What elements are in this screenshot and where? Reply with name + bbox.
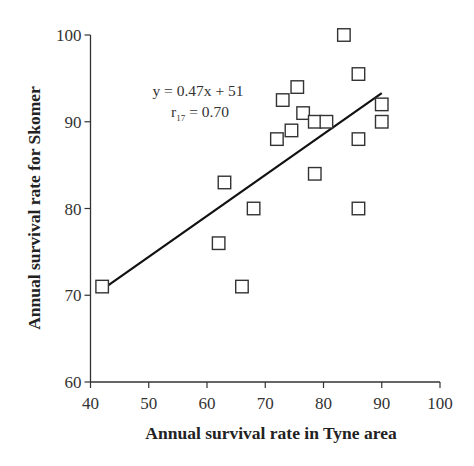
scatter-chart: 405060708090100 60708090100 y = 0.47x + … [0,0,474,466]
data-point-square [309,116,322,129]
x-tick-label: 60 [199,394,216,413]
x-tick-label: 40 [82,394,99,413]
data-point-square [352,133,365,146]
x-ticks: 405060708090100 [82,382,453,413]
y-tick-label: 90 [65,113,82,132]
x-tick-label: 50 [140,394,157,413]
x-tick-label: 100 [427,394,453,413]
correlation-label: r17 = 0.70 [171,103,229,123]
data-points [96,29,388,293]
y-ticks: 60708090100 [56,26,91,392]
data-point-square [285,124,298,137]
regression-line [103,93,382,289]
axes: 405060708090100 60708090100 [56,26,453,413]
y-tick-label: 100 [56,26,82,45]
data-point-square [276,94,289,107]
data-point-square [96,280,109,293]
data-point-square [376,116,389,129]
data-point-square [320,116,333,129]
x-tick-label: 80 [315,394,332,413]
x-axis-title: Annual survival rate in Tyne area [145,423,397,443]
equation-label: y = 0.47x + 51 [152,82,243,99]
data-point-square [297,107,310,120]
data-point-square [212,237,225,250]
data-point-square [376,98,389,111]
y-tick-label: 80 [65,200,82,219]
data-point-square [338,29,351,42]
x-tick-label: 70 [257,394,274,413]
data-point-square [247,202,260,215]
data-point-square [291,81,304,94]
y-axis-title: Annual survival rate for Skomer [24,86,44,330]
data-point-square [352,68,365,81]
data-point-square [218,176,231,189]
data-point-square [309,168,322,181]
data-point-square [236,280,249,293]
regression-line-path [103,93,382,289]
y-tick-label: 70 [65,286,82,305]
y-tick-label: 60 [65,373,82,392]
x-tick-label: 90 [373,394,390,413]
data-point-square [271,133,284,146]
data-point-square [352,202,365,215]
